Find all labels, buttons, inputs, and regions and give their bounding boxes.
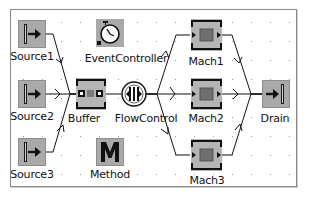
flow-control-icon <box>121 81 147 107</box>
label-buffer: Buffer <box>68 112 100 125</box>
machine-icon <box>191 78 222 110</box>
machine-icon <box>191 139 222 171</box>
connector-source1-buffer[interactable] <box>46 34 76 94</box>
label-mach2: Mach2 <box>188 112 223 125</box>
source-icon <box>18 20 46 48</box>
label-drain: Drain <box>261 112 290 125</box>
label-method: Method <box>90 168 130 181</box>
machine-icon <box>191 19 222 51</box>
label-mach3: Mach3 <box>189 174 224 187</box>
buffer-icon <box>76 78 106 110</box>
label-flowcontrol: FlowControl <box>115 112 178 125</box>
label-mach1: Mach1 <box>188 55 223 68</box>
method-icon <box>96 138 124 166</box>
source-icon <box>18 138 46 166</box>
label-source2: Source2 <box>10 110 53 123</box>
label-eventcontroller: EventController <box>85 52 168 65</box>
connector-mach1-drain[interactable] <box>222 35 262 94</box>
source-icon <box>18 80 46 108</box>
label-source3: Source3 <box>10 168 53 181</box>
stopwatch-icon <box>96 19 124 47</box>
drain-icon <box>262 80 290 108</box>
label-source1: Source1 <box>10 50 53 63</box>
connector-mach3-drain[interactable] <box>222 94 262 155</box>
